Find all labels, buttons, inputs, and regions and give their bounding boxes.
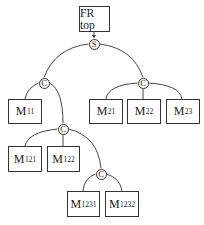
combination-node-c12: C [58, 124, 69, 135]
node-label: C [41, 79, 47, 88]
module-subscript: 21 [108, 107, 116, 116]
module-subscript: 11 [27, 107, 34, 116]
module-m122: M122 [47, 146, 80, 172]
module-m11: M11 [8, 99, 42, 124]
module-m1232: M1232 [105, 191, 139, 217]
fr-top-box: FR top [79, 6, 110, 32]
module-base: M [97, 104, 108, 119]
combination-node-c123: C [96, 169, 107, 180]
module-base: M [70, 197, 81, 212]
selection-node-s: S [89, 39, 100, 50]
node-label: C [98, 170, 104, 179]
module-subscript: 121 [25, 155, 36, 164]
module-m23: M23 [166, 99, 200, 124]
module-subscript: 22 [146, 107, 154, 116]
module-m1231: M1231 [67, 191, 100, 217]
module-subscript: 1231 [82, 200, 97, 209]
module-base: M [135, 104, 146, 119]
module-base: M [52, 152, 63, 167]
module-m121: M121 [8, 146, 42, 172]
module-base: M [174, 104, 185, 119]
combination-node-c2: C [138, 78, 149, 89]
module-base: M [16, 104, 27, 119]
module-subscript: 23 [185, 107, 193, 116]
node-label: S [92, 40, 97, 49]
combination-node-c1: C [39, 78, 50, 89]
module-subscript: 122 [63, 155, 74, 164]
node-label: C [140, 79, 146, 88]
module-base: M [14, 152, 25, 167]
module-base: M [109, 197, 120, 212]
module-m22: M22 [127, 99, 161, 124]
module-m21: M21 [89, 99, 123, 124]
module-subscript: 1232 [120, 200, 135, 209]
fr-top-label: FR top [80, 7, 109, 31]
node-label: C [60, 125, 66, 134]
